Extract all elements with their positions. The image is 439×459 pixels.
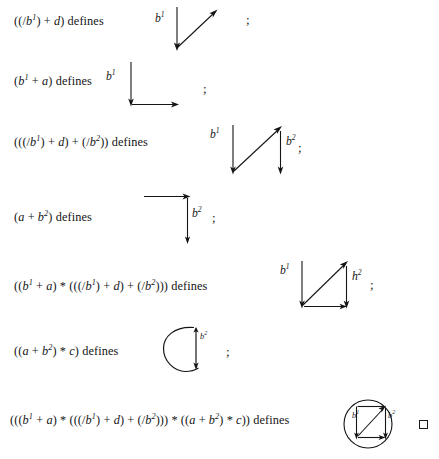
expression-text: ((a + b2) * c) defines [14, 344, 118, 359]
line-separator: ; [370, 277, 374, 293]
diagram-right-arrow-then-down-arrow [142, 191, 222, 253]
diagram-label-b2: b2 [388, 411, 395, 420]
expression-text: (b1 + a) defines [14, 74, 92, 89]
diagram-label-b2: b2 [286, 135, 296, 148]
diagram-circle-with-inscribed-square-and-diagonal [341, 394, 415, 456]
diagram-circle-loop-with-down-arrow [160, 323, 226, 379]
expression-text: (((/b1) + d) + (/b2)) defines [14, 135, 148, 150]
diagram-label-b1: b1 [106, 70, 116, 83]
diagram-label-b1: b1 [280, 264, 290, 277]
diagram-label-b1: b1 [210, 128, 220, 141]
diagram-down-arrow-then-right-arrow [126, 61, 202, 113]
line-separator: ; [212, 210, 216, 226]
expression-text: ((b1 + a) * (((/b1) + d) + (/b2))) defin… [14, 279, 207, 294]
diagram-label-b1: b1 [352, 411, 359, 420]
expression-text: (a + b2) defines [14, 210, 92, 225]
diagram-down-arrow-with-diagonal-up-arrow [172, 6, 236, 58]
diagram-two-down-arrows-with-diagonal [228, 123, 316, 185]
expression-text: ((/b1) + d) defines [14, 14, 104, 29]
line-separator: ; [226, 344, 230, 360]
line-separator: ; [246, 12, 250, 28]
line-separator: ; [203, 81, 207, 97]
expression-text: (((b1 + a) * (((/b1) + d) + (/b2))) * ((… [10, 413, 289, 428]
diagram-label-h2: h2 [352, 270, 362, 283]
diagram-label-b1: b1 [155, 12, 165, 25]
diagram-triangle-with-two-down-arrows-and-base [297, 259, 377, 321]
diagram-label-b2: b2 [200, 332, 207, 341]
diagram-label-b2: b2 [192, 207, 202, 220]
line-separator: ; [298, 140, 302, 156]
proof-page: ((/b1) + d) defines b1 ; (b1 + a) define… [0, 0, 439, 459]
qed-box [419, 420, 428, 429]
